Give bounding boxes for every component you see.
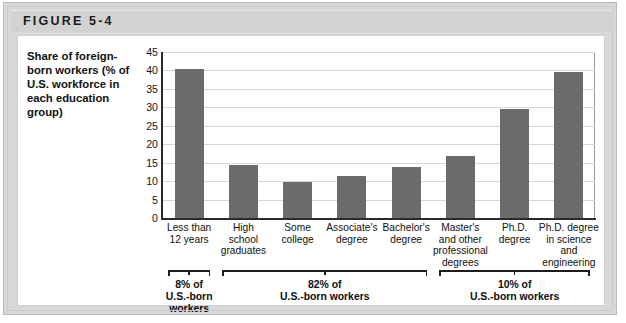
y-axis-tick: 10 <box>132 175 158 187</box>
bracket-shape <box>162 269 216 278</box>
bar <box>283 182 312 218</box>
x-axis-label: Ph.D. degreein scienceandengineering <box>535 222 603 268</box>
y-axis-tick: 5 <box>132 194 158 206</box>
figure-number-label: FIGURE 5-4 <box>23 14 114 28</box>
bracket-tick-right <box>426 270 428 276</box>
y-axis-tick: 30 <box>132 101 158 113</box>
x-axis-line <box>161 218 596 220</box>
bar <box>446 156 475 218</box>
bracket-label: 8% ofU.S.-born workers <box>162 279 216 316</box>
bar <box>392 167 421 218</box>
bracket-tick-right <box>588 270 590 276</box>
bar <box>337 176 366 218</box>
y-axis-tick: 35 <box>132 83 158 95</box>
y-axis-tick-labels: 051015202530354045 <box>128 52 158 218</box>
y-axis-tick: 15 <box>132 157 158 169</box>
bar <box>500 109 529 218</box>
group-bracket: 8% ofU.S.-born workers <box>162 269 216 278</box>
chart-caption: Share of foreign-born workers (% of U.S.… <box>27 49 139 119</box>
group-brackets: 8% ofU.S.-born workers82% ofU.S.-born wo… <box>162 269 596 307</box>
bracket-label: 82% ofU.S.-born workers <box>216 279 433 303</box>
y-axis-tick: 45 <box>132 46 158 58</box>
figure-frame: FIGURE 5-4 Share of foreign-born workers… <box>3 2 617 315</box>
bracket-shape <box>433 269 596 278</box>
chart-card: Share of foreign-born workers (% of U.S.… <box>17 35 605 306</box>
bracket-shape <box>216 269 433 278</box>
bracket-tick-left <box>168 270 170 276</box>
y-axis-tick: 40 <box>132 64 158 76</box>
bracket-nub <box>188 270 190 275</box>
bracket-tick-left <box>222 270 224 276</box>
figure-header-band: FIGURE 5-4 <box>11 10 611 32</box>
bar <box>175 69 204 218</box>
bracket-tick-right <box>209 270 211 276</box>
bracket-nub <box>324 270 326 275</box>
bracket-label: 10% ofU.S.-born workers <box>433 279 596 303</box>
group-bracket: 10% ofU.S.-born workers <box>433 269 596 278</box>
group-bracket: 82% ofU.S.-born workers <box>216 269 433 278</box>
bar <box>554 72 583 218</box>
bracket-nub <box>514 270 516 275</box>
y-axis-tick: 20 <box>132 138 158 150</box>
bracket-tick-left <box>439 270 441 276</box>
bar <box>229 165 258 218</box>
y-axis-tick: 25 <box>132 120 158 132</box>
bars-layer <box>162 52 596 218</box>
